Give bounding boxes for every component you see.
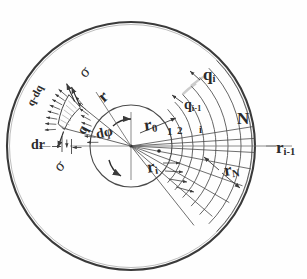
dr-dimension [39,136,82,154]
ring-index-N: N [237,110,249,127]
ring-center-dot [157,149,161,153]
ri-minus-1-label: ri-1 [276,139,295,158]
diagram-svg [0,0,307,279]
qi-minus-1-sub: i-1 [192,103,202,113]
dr-label: dr [31,138,45,152]
figure-canvas: σ σ q-dq q dr dφ r r0 ri rN ri-1 qi qi-1… [0,0,307,279]
qi-minus-1-base: q [184,97,192,112]
ring-index-2: 2 [177,125,183,136]
ring-index-1: 1 [167,126,173,137]
rN-label: rN [223,160,241,181]
qi-minus-1-label: qi-1 [184,98,201,113]
ring-index-i: i [199,124,202,135]
qi-sub: i [212,73,215,84]
rotation-arrows [109,119,131,176]
qi-minus-1-leader [172,95,183,103]
rN-sub: N [231,167,240,179]
ri-minus-1-base: r [276,138,284,157]
sigma-arrows [58,84,80,148]
qi-label: qi [203,66,215,85]
ri-minus-1-sub: i-1 [284,146,296,157]
qi-leader [190,71,200,80]
r0-label: r0 [143,115,158,135]
outer-load-arrows [45,89,68,130]
